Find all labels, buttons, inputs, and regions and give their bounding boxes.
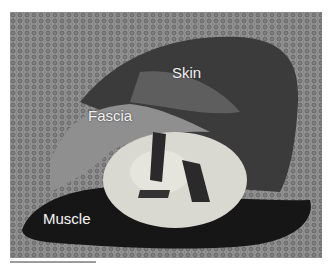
label-fascia: Fascia — [88, 107, 132, 124]
scale-bar — [10, 261, 96, 263]
specimen-photo: Skin Fascia Muscle — [10, 12, 322, 258]
label-skin: Skin — [172, 64, 201, 81]
label-muscle: Muscle — [43, 210, 91, 227]
